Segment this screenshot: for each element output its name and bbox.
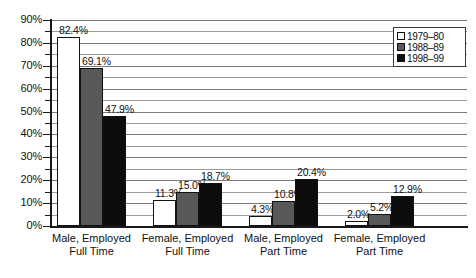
gridline-major [51,89,467,90]
bar [272,201,295,226]
bar [391,196,414,226]
y-axis-tick-major [43,226,51,227]
gridline-minor [51,100,467,101]
white-swatch [397,32,405,40]
y-axis-tick-major [43,203,51,204]
y-axis-tick-label: 0% [2,219,42,231]
category-label-line1: Male, Employed [244,232,323,244]
y-axis-tick-label: 70% [2,59,42,71]
black-swatch [397,54,405,62]
y-axis-tick-label: 40% [2,127,42,139]
y-axis-tick-minor [45,100,51,101]
bar-chart: 90%80%70%60%50%40%30%20%10%0% 82.4%69.1%… [0,0,476,278]
x-axis-line [50,226,468,228]
legend-item: 1988–89 [397,42,462,52]
bar [345,221,368,226]
bar [249,216,272,226]
legend-item-label: 1979–80 [407,31,444,42]
y-axis-tick-major [43,43,51,44]
bar [57,37,80,226]
bar [199,183,222,226]
category-label-line1: Female, Employed [334,232,426,244]
bar-value-label: 5.2% [370,201,393,213]
y-axis-tick-label: 80% [2,36,42,48]
bar [80,68,103,226]
y-axis-tick-minor [45,123,51,124]
gray-swatch [397,43,405,51]
bar-value-label: 4.3% [251,203,274,215]
y-axis-tick-major [43,20,51,21]
y-axis-tick-label: 20% [2,173,42,185]
legend-item: 1979–80 [397,31,462,41]
y-axis-tick-label: 30% [2,150,42,162]
y-axis-tick-minor [45,77,51,78]
y-axis-tick-label: 10% [2,196,42,208]
y-axis-tick-label: 50% [2,105,42,117]
y-axis-tick-minor [45,31,51,32]
y-axis-tick-minor [45,215,51,216]
bar [295,179,318,226]
x-axis-category-label: Female, EmployedPart Time [315,232,445,258]
legend: 1979–801988–891998–99 [393,27,466,67]
bar-value-label: 47.9% [105,103,134,115]
y-axis-tick-minor [45,192,51,193]
legend-item-label: 1998–99 [407,53,444,64]
y-axis-tick-major [43,157,51,158]
category-label-line1: Male, Employed [52,232,131,244]
bar [368,214,391,226]
bar-value-label: 82.4% [59,24,88,36]
y-axis-tick-major [43,112,51,113]
y-axis-tick-major [43,134,51,135]
y-axis-tick-major [43,89,51,90]
bar [153,200,176,226]
legend-item-label: 1988–89 [407,42,444,53]
legend-item: 1998–99 [397,53,462,63]
bar-value-label: 12.9% [393,183,422,195]
y-axis-tick-minor [45,146,51,147]
bar-value-label: 18.7% [201,170,230,182]
y-axis-tick-label: 60% [2,82,42,94]
bar-value-label: 2.0% [347,208,370,220]
y-axis-tick-major [43,66,51,67]
y-axis-tick-minor [45,169,51,170]
y-axis-tick-label: 90% [2,13,42,25]
bar [103,116,126,226]
category-label-line2: Part Time [315,245,445,258]
y-axis-tick-major [43,180,51,181]
y-axis-tick-minor [45,54,51,55]
gridline-minor [51,77,467,78]
gridline-major [51,20,467,21]
bar-value-label: 69.1% [82,55,111,67]
bar [176,192,199,226]
bar-value-label: 20.4% [297,166,326,178]
